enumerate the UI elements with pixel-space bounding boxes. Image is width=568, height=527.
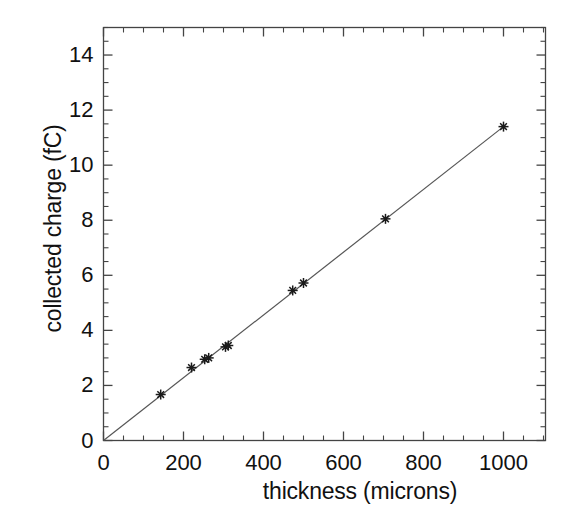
y-tick-label: 12 (56, 97, 94, 123)
x-tick-label: 800 (405, 450, 442, 476)
x-tick-label: 1000 (479, 450, 528, 476)
y-tick-label: 4 (56, 317, 94, 343)
y-tick-label: 14 (56, 42, 94, 68)
plot-frame (104, 28, 546, 441)
y-tick-label: 10 (56, 152, 94, 178)
x-tick-label: 200 (165, 450, 202, 476)
chart-figure: collected charge (fC) thickness (microns… (0, 0, 568, 527)
x-axis-label: thickness (microns) (190, 478, 530, 505)
data-point (288, 285, 298, 295)
x-tick-label: 0 (97, 450, 109, 476)
x-tick-label: 600 (325, 450, 362, 476)
y-tick-label: 0 (56, 428, 94, 454)
axis-ticks (104, 28, 546, 441)
x-tick-label: 400 (245, 450, 282, 476)
y-tick-label: 2 (56, 372, 94, 398)
data-point (187, 363, 197, 373)
y-tick-label: 8 (56, 207, 94, 233)
y-tick-label: 6 (56, 262, 94, 288)
